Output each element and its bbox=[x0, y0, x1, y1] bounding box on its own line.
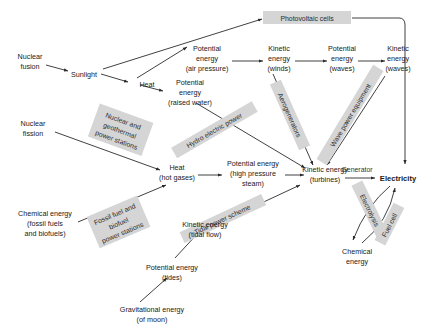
node-chemical-fuels-line3: and biofuels) bbox=[24, 229, 65, 238]
diagram-canvas: Photovoltaic cells Hydro electric power … bbox=[0, 0, 424, 332]
node-pe-raised-water-line1: Potential bbox=[176, 78, 204, 87]
node-ke-waves-line3: (waves) bbox=[385, 64, 410, 73]
energy-flow-diagram: Photovoltaic cells Hydro electric power … bbox=[0, 0, 424, 332]
node-ke-tidal-line1: Kinetic energy bbox=[182, 220, 228, 229]
node-gravitational-line1: Gravitational energy bbox=[120, 305, 185, 314]
node-pe-steam-line2: (high pressure bbox=[230, 169, 276, 178]
node-ke-turbines-line2: (turbines) bbox=[310, 175, 340, 184]
wave-power-equipment-label: Wave power equipment bbox=[329, 82, 373, 148]
node-heat-hot-gases-line2: (hot gases) bbox=[159, 173, 195, 182]
node-ke-winds-line3: (winds) bbox=[267, 64, 290, 73]
photovoltaic-cells-label: Photovoltaic cells bbox=[280, 15, 334, 22]
node-nuclear-fission-line1: Nuclear bbox=[21, 119, 46, 128]
node-pe-tides-line1: Potential energy bbox=[146, 263, 198, 272]
node-ke-waves-line1: Kinetic bbox=[387, 44, 409, 53]
node-pe-air-pressure-line3: (air pressure) bbox=[186, 64, 229, 73]
node-heat-hot-gases-line1: Heat bbox=[169, 163, 184, 172]
node-pe-waves-line3: (waves) bbox=[329, 64, 354, 73]
node-nuclear-fusion-line1: Nuclear bbox=[18, 52, 43, 61]
arrow-kewaves-to-turbines bbox=[327, 76, 385, 165]
arrow-heat-to-airpressure bbox=[137, 47, 187, 78]
node-chemical-fuels-line2: (fossil fuels bbox=[27, 219, 63, 228]
process-boxes bbox=[87, 11, 405, 248]
hydro-electric-power-label: Hydro electric power bbox=[185, 111, 244, 150]
node-ke-tidal-line2: (tidal flow) bbox=[189, 230, 222, 239]
node-pe-waves-line1: Potential bbox=[328, 44, 356, 53]
node-sunlight: Sunlight bbox=[71, 70, 97, 79]
arrow-sunlight-to-photovoltaic bbox=[103, 19, 262, 69]
node-gravitational-line2: (of moon) bbox=[137, 315, 168, 324]
node-pe-steam-line3: steam) bbox=[242, 179, 264, 188]
node-nuclear-fusion-line2: fusion bbox=[20, 62, 39, 71]
node-ke-winds-line2: energy bbox=[268, 54, 290, 63]
node-ke-winds-line1: Kinetic bbox=[268, 44, 290, 53]
arrow-sunlight-to-heat bbox=[101, 74, 128, 82]
node-pe-raised-water-line3: (raised water) bbox=[168, 98, 212, 107]
node-chemical-energy-out-line2: energy bbox=[346, 257, 368, 266]
node-pe-raised-water-line2: energy bbox=[179, 88, 201, 97]
node-chemical-energy-out-line1: Chemical bbox=[342, 247, 372, 256]
node-pe-waves-line2: energy bbox=[331, 54, 353, 63]
node-chemical-fuels-line1: Chemical energy bbox=[18, 209, 72, 218]
node-pe-tides-line2: (tides) bbox=[162, 273, 182, 282]
node-pe-air-pressure-line1: Potential bbox=[193, 44, 221, 53]
node-electricity: Electricity bbox=[380, 174, 417, 183]
arrow-fusion-to-sunlight bbox=[46, 65, 68, 71]
node-ke-turbines-line1: Kinetic energy bbox=[302, 165, 348, 174]
node-pe-steam-line1: Potential energy bbox=[227, 159, 279, 168]
node-ke-waves-line2: energy bbox=[387, 54, 409, 63]
node-nuclear-fission-line2: fission bbox=[23, 129, 43, 138]
node-pe-air-pressure-line2: energy bbox=[196, 54, 218, 63]
node-heat: Heat bbox=[139, 80, 154, 89]
